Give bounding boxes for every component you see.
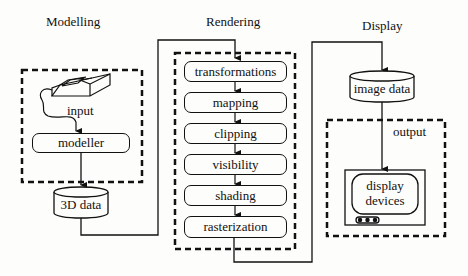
step-label: clipping xyxy=(214,126,257,142)
step-label: visibility xyxy=(212,157,258,173)
3d-data-label: 3D data xyxy=(54,197,108,213)
step-rasterization: rasterization xyxy=(184,216,287,238)
stage-title-rendering: Rendering xyxy=(206,14,260,30)
display-devices-label: display devices xyxy=(352,178,418,208)
image-data-label: image data xyxy=(350,81,414,97)
display-devices-line2: devices xyxy=(352,193,418,208)
step-label: shading xyxy=(215,188,255,204)
step-transformations: transformations xyxy=(184,61,287,82)
modelling-group-border xyxy=(22,70,142,182)
display-devices-line1: display xyxy=(352,178,418,193)
step-clipping: clipping xyxy=(184,123,287,144)
step-shading: shading xyxy=(184,185,287,206)
output-label: output xyxy=(393,124,426,140)
step-visibility: visibility xyxy=(184,154,287,175)
modeller-label: modeller xyxy=(58,135,104,151)
step-mapping: mapping xyxy=(184,92,287,113)
stage-title-modelling: Modelling xyxy=(46,14,100,30)
step-label: mapping xyxy=(213,95,259,111)
step-label: rasterization xyxy=(203,219,267,235)
step-label: transformations xyxy=(195,64,277,80)
input-label: input xyxy=(67,103,94,119)
stage-title-display: Display xyxy=(362,18,402,34)
modeller-box: modeller xyxy=(32,133,130,153)
